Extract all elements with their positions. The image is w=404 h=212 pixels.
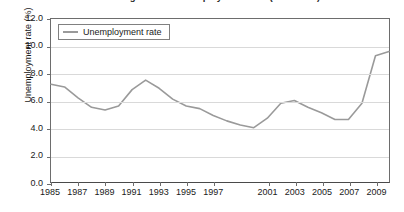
x-tick-mark (269, 182, 270, 186)
y-tick-label: 10.0 (3, 41, 43, 50)
chart-legend: Unemployment rate (58, 24, 170, 40)
chart-figure: U.S. Average Annual Unemployment Rate (1… (0, 0, 404, 212)
x-tick-mark (78, 182, 79, 186)
y-tick-label: 12.0 (3, 14, 43, 23)
y-tick-label: 2.0 (3, 151, 43, 160)
y-tick-mark (47, 47, 51, 48)
x-tick-mark (187, 182, 188, 186)
x-tick-mark (323, 182, 324, 186)
x-tick-mark (133, 182, 134, 186)
legend-label-unemployment-rate: Unemployment rate (83, 27, 162, 37)
x-tick-label: 1997 (193, 187, 233, 197)
x-tick-mark (105, 182, 106, 186)
y-tick-mark (47, 74, 51, 75)
plot-area (50, 18, 390, 183)
gridline (51, 157, 389, 158)
gridline (51, 74, 389, 75)
y-tick-label: 8.0 (3, 69, 43, 78)
chart-title: U.S. Average Annual Unemployment Rate (1… (0, 0, 404, 2)
y-tick-mark (47, 19, 51, 20)
x-tick-label: 2009 (356, 187, 396, 197)
x-tick-mark (350, 182, 351, 186)
x-tick-mark (296, 182, 297, 186)
gridline (51, 129, 389, 130)
y-tick-label: 6.0 (3, 96, 43, 105)
x-tick-mark (214, 182, 215, 186)
data-line-unemployment-rate (51, 52, 389, 128)
x-tick-mark (51, 182, 52, 186)
y-tick-mark (47, 129, 51, 130)
y-tick-label: 4.0 (3, 124, 43, 133)
gridline (51, 47, 389, 48)
y-tick-mark (47, 102, 51, 103)
legend-line-swatch (63, 31, 78, 33)
y-tick-mark (47, 157, 51, 158)
x-tick-mark (160, 182, 161, 186)
x-tick-mark (377, 182, 378, 186)
gridline (51, 102, 389, 103)
line-series-svg (51, 19, 389, 182)
